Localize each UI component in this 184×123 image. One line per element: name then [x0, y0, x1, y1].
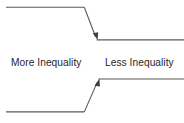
lower-path-arrow-icon — [95, 79, 100, 87]
inequality-convergence-diagram: More Inequality Less Inequality — [0, 0, 184, 123]
label-more-inequality: More Inequality — [11, 57, 81, 69]
upper-path-diagonal-segment — [84, 7, 95, 36]
upper-path-arrow-icon — [93, 32, 98, 40]
lower-path-group — [6, 79, 184, 112]
upper-path-group — [6, 7, 184, 40]
lower-path-diagonal-segment — [84, 82, 97, 112]
label-less-inequality: Less Inequality — [105, 57, 174, 69]
